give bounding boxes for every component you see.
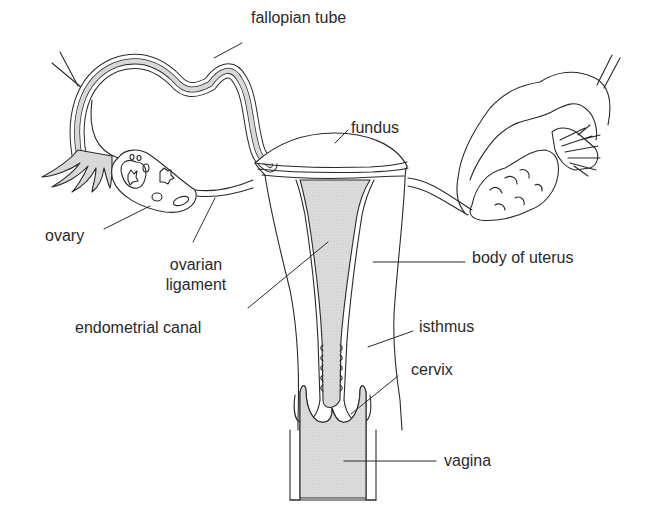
label-body-of-uterus: body of uterus [472, 249, 573, 267]
left-suspensory-ligament [52, 52, 82, 88]
left-fimbriae [42, 150, 112, 192]
right-fimbriae [552, 125, 600, 176]
endometrial-canal [296, 180, 374, 408]
leader-cervix [351, 376, 398, 414]
label-fallopian-tube: fallopian tube [251, 9, 346, 27]
label-isthmus: isthmus [419, 318, 474, 336]
left-fallopian-tube [77, 61, 270, 165]
label-endometrial-canal: endometrial canal [75, 319, 201, 337]
leader-ovarian-ligament [193, 198, 215, 242]
label-ovary: ovary [45, 227, 84, 245]
leader-lines [104, 43, 465, 461]
label-ovarian-ligament-line1: ovarian [153, 256, 239, 274]
label-cervix: cervix [411, 361, 453, 379]
anatomy-diagram: fallopian tube fundus ovary ovarian liga… [0, 0, 661, 529]
right-ovary [470, 150, 558, 221]
right-suspensory-ligament [597, 55, 620, 88]
leader-isthmus [368, 331, 413, 347]
left-ovary [112, 150, 197, 212]
leader-ovary [104, 206, 150, 229]
fundus-dome [255, 133, 407, 166]
label-ovarian-ligament-line2: ligament [153, 276, 239, 294]
label-vagina: vagina [444, 452, 491, 470]
leader-fallopian-tube [214, 43, 242, 58]
label-fundus: fundus [351, 119, 399, 137]
left-ovarian-ligament [195, 180, 253, 197]
